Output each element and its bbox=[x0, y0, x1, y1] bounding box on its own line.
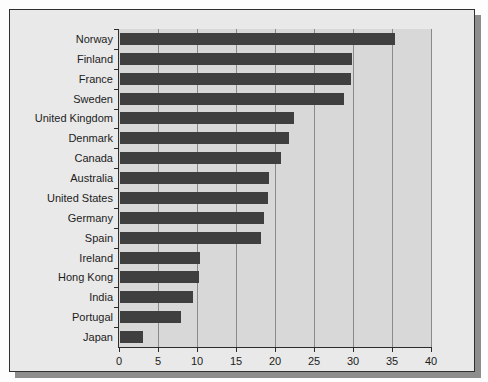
x-axis-tick-label: 15 bbox=[216, 354, 256, 368]
x-axis-tick bbox=[275, 347, 276, 352]
y-axis-tick bbox=[114, 228, 119, 229]
y-axis-tick bbox=[114, 128, 119, 129]
bar bbox=[120, 73, 351, 85]
x-axis-tick-label: 35 bbox=[372, 354, 412, 368]
y-axis-label-france: France bbox=[16, 73, 113, 85]
x-axis-tick bbox=[431, 347, 432, 352]
bar bbox=[120, 192, 268, 204]
y-axis-tick bbox=[114, 188, 119, 189]
y-axis-label-canada: Canada bbox=[16, 152, 113, 164]
figure-frame: NorwayFinlandFranceSwedenUnited KingdomD… bbox=[9, 9, 475, 372]
y-axis-tick bbox=[114, 327, 119, 328]
y-axis-label-australia: Australia bbox=[16, 172, 113, 184]
x-axis-tick-label: 40 bbox=[411, 354, 451, 368]
y-axis-category-labels: NorwayFinlandFranceSwedenUnited KingdomD… bbox=[10, 29, 113, 347]
y-axis-tick bbox=[114, 307, 119, 308]
y-axis-label-japan: Japan bbox=[16, 331, 113, 343]
x-axis-tick bbox=[236, 347, 237, 352]
x-axis-tick-label: 10 bbox=[177, 354, 217, 368]
y-axis-label-sweden: Sweden bbox=[16, 93, 113, 105]
bar bbox=[120, 311, 181, 323]
y-axis-tick bbox=[114, 29, 119, 30]
bar bbox=[120, 172, 269, 184]
y-axis-label-ireland: Ireland bbox=[16, 252, 113, 264]
bar bbox=[120, 132, 289, 144]
y-axis-label-norway: Norway bbox=[16, 33, 113, 45]
x-axis-tick-label: 20 bbox=[255, 354, 295, 368]
x-gridline bbox=[353, 29, 354, 347]
y-axis-label-india: India bbox=[16, 291, 113, 303]
bar bbox=[120, 112, 294, 124]
y-axis-label-finland: Finland bbox=[16, 53, 113, 65]
x-axis-tick bbox=[119, 347, 120, 352]
bar bbox=[120, 33, 395, 45]
bar bbox=[120, 331, 143, 343]
x-axis-tick bbox=[353, 347, 354, 352]
y-axis-label-united-states: United States bbox=[16, 192, 113, 204]
chart-figure: NorwayFinlandFranceSwedenUnited KingdomD… bbox=[0, 0, 488, 382]
y-axis-tick bbox=[114, 208, 119, 209]
bar bbox=[120, 291, 193, 303]
x-axis-tick bbox=[197, 347, 198, 352]
bar bbox=[120, 252, 200, 264]
x-axis-tick bbox=[392, 347, 393, 352]
x-axis-tick-label: 5 bbox=[138, 354, 178, 368]
y-axis-tick bbox=[114, 168, 119, 169]
bar bbox=[120, 152, 281, 164]
x-axis-tick-label: 0 bbox=[99, 354, 139, 368]
x-axis-tick bbox=[158, 347, 159, 352]
y-axis-label-denmark: Denmark bbox=[16, 132, 113, 144]
y-axis-tick bbox=[114, 69, 119, 70]
bar bbox=[120, 271, 199, 283]
y-axis-label-germany: Germany bbox=[16, 212, 113, 224]
bar bbox=[120, 53, 352, 65]
x-axis-tick-label: 30 bbox=[333, 354, 373, 368]
plot-area: 0510152025303540 bbox=[118, 29, 431, 348]
y-axis-label-spain: Spain bbox=[16, 232, 113, 244]
y-axis-tick bbox=[114, 89, 119, 90]
y-axis-label-hong-kong: Hong Kong bbox=[16, 271, 113, 283]
y-axis-tick bbox=[114, 287, 119, 288]
y-axis-tick bbox=[114, 148, 119, 149]
x-gridline bbox=[392, 29, 393, 347]
x-gridline bbox=[431, 29, 432, 347]
y-axis-tick bbox=[114, 49, 119, 50]
y-axis-label-united-kingdom: United Kingdom bbox=[16, 112, 113, 124]
y-axis-tick bbox=[114, 248, 119, 249]
bar bbox=[120, 93, 344, 105]
bar bbox=[120, 232, 261, 244]
bar bbox=[120, 212, 264, 224]
y-axis-label-portugal: Portugal bbox=[16, 311, 113, 323]
y-axis-tick bbox=[114, 268, 119, 269]
x-axis-tick-label: 25 bbox=[294, 354, 334, 368]
x-axis-tick bbox=[314, 347, 315, 352]
y-axis-tick bbox=[114, 109, 119, 110]
